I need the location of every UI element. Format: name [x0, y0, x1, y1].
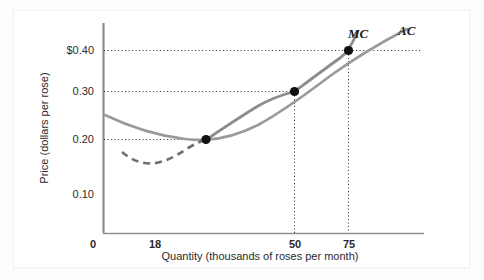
y-tick-label-040: $0.40: [24, 44, 94, 56]
ac-curve: [105, 29, 407, 140]
mc-at-50-marker: [290, 87, 299, 96]
x-tick-label-75: 75: [339, 238, 359, 250]
y-axis-title: Price (dollars per rose): [38, 68, 50, 188]
x-axis-title: Quantity (thousands of roses per month): [120, 250, 400, 262]
x-tick-label-0: 0: [83, 238, 103, 250]
curve-label-ac: AC: [398, 23, 415, 39]
x-tick-label-50: 50: [285, 238, 305, 250]
mc-curve-dashed-segment: [122, 140, 206, 164]
chart-figure: $0.40 0.30 0.20 0.10 0 18 50 75 Quantity…: [0, 0, 484, 280]
x-tick-label-18: 18: [145, 238, 165, 250]
y-tick-label-030: 0.30: [24, 85, 94, 97]
mc-curve: [206, 32, 358, 140]
mc-at-75-marker: [344, 46, 353, 55]
y-tick-label-020: 0.20: [24, 133, 94, 145]
tangency-point-marker: [201, 135, 210, 144]
y-tick-label-010: 0.10: [24, 188, 94, 200]
curve-label-mc: MC: [348, 26, 368, 42]
